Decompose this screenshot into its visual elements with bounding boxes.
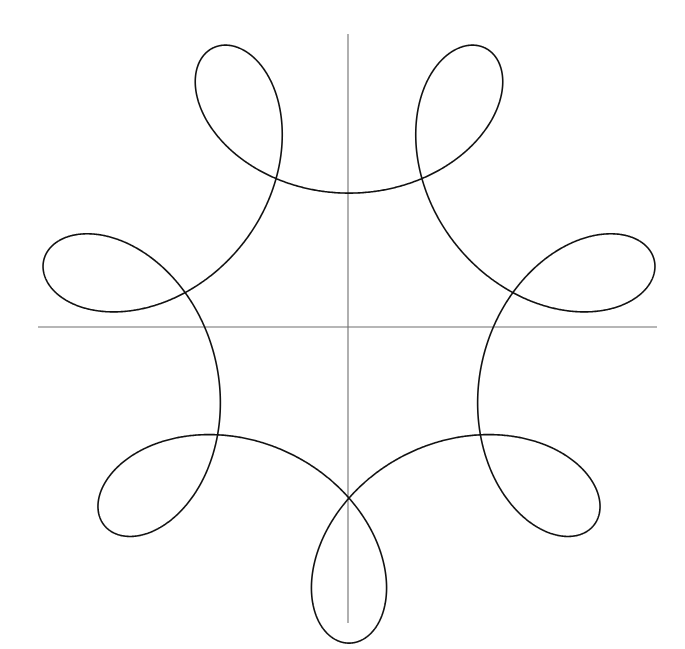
plot-background bbox=[0, 0, 685, 649]
plot-area bbox=[0, 0, 685, 649]
figure-canvas bbox=[0, 0, 685, 649]
